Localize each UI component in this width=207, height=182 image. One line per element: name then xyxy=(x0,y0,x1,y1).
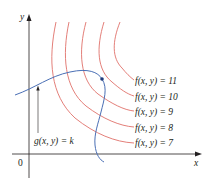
level-label-9: f(x, y) = 9 xyxy=(135,107,173,118)
constraint-label: g(x, y) = k xyxy=(34,136,74,147)
constraint-curve xyxy=(15,70,105,162)
origin-label: 0 xyxy=(18,158,23,168)
x-axis-arrow-icon xyxy=(195,152,202,157)
level-curve-labels: f(x, y) = 11 f(x, y) = 10 f(x, y) = 9 f(… xyxy=(135,76,178,149)
y-axis-label: y xyxy=(19,12,25,22)
level-curve-9 xyxy=(82,22,134,111)
tangent-point xyxy=(100,77,104,81)
x-axis-label: x xyxy=(193,158,199,168)
level-label-11: f(x, y) = 11 xyxy=(135,76,177,87)
level-label-10: f(x, y) = 10 xyxy=(135,92,178,103)
constraint-pointer-arrow-icon xyxy=(36,86,39,91)
level-curves xyxy=(52,22,134,143)
lagrange-level-curves-diagram: y x 0 f(x, y) = 11 f(x, y) = 10 f(x, y) … xyxy=(0,0,207,182)
level-label-8: f(x, y) = 8 xyxy=(135,123,173,134)
level-label-7: f(x, y) = 7 xyxy=(135,138,174,149)
y-axis-arrow-icon xyxy=(27,14,32,21)
level-curve-11 xyxy=(114,22,134,80)
